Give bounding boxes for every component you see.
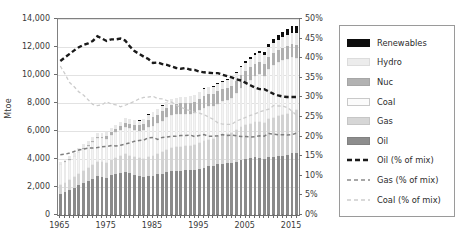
x-tick-mark: [180, 214, 181, 218]
x-tick-mark: [129, 214, 130, 218]
legend-item[interactable]: Oil (% of mix): [347, 151, 454, 171]
x-tick-mark: [138, 214, 139, 218]
legend-label: Hydro: [377, 57, 402, 67]
x-tick-mark: [184, 214, 185, 218]
legend-label: Nuc: [377, 77, 393, 87]
x-axis: 196519751985199520052015: [57, 214, 298, 236]
y-tick-mark-left: [54, 186, 57, 187]
y-tick-mark-right: [299, 214, 302, 215]
legend-label: Oil: [377, 136, 388, 146]
x-tick-mark: [282, 214, 283, 218]
x-tick-mark: [231, 214, 232, 218]
x-tick-mark: [268, 214, 269, 218]
y-tick-label-right: 40%: [305, 53, 323, 62]
x-tick-mark: [263, 214, 264, 218]
y-tick-label-right: 15%: [305, 151, 323, 160]
x-tick-label: 1985: [142, 221, 162, 230]
percent-lines: [58, 19, 299, 215]
x-tick-label: 1975: [95, 221, 115, 230]
y-tick-label-left: 14,000: [0, 14, 50, 23]
legend-line-sample: [347, 196, 370, 204]
x-tick-mark: [96, 214, 97, 218]
legend-item[interactable]: Oil: [347, 131, 454, 151]
x-tick-mark: [73, 214, 74, 218]
legend-swatch: [347, 78, 370, 86]
x-tick-mark: [171, 214, 172, 218]
y-tick-label-right: 20%: [305, 131, 323, 140]
y-tick-mark-right: [299, 18, 302, 19]
plot-area: [57, 18, 300, 216]
y-tick-label-left: 2,000: [0, 182, 50, 191]
legend-item[interactable]: Hydro: [347, 53, 454, 73]
y-tick-mark-right: [299, 96, 302, 97]
x-tick-mark: [161, 214, 162, 218]
x-tick-mark: [208, 214, 209, 218]
legend-swatch: [347, 117, 370, 125]
x-tick-mark: [157, 214, 158, 218]
y-tick-label-right: 35%: [305, 72, 323, 81]
y-tick-label-right: 25%: [305, 112, 323, 121]
y-tick-label-right: 5%: [305, 190, 318, 199]
legend-item[interactable]: Gas (% of mix): [347, 170, 454, 190]
x-tick-mark: [277, 214, 278, 218]
x-tick-mark: [101, 214, 102, 218]
legend-swatch: [347, 137, 370, 145]
y-tick-mark-right: [299, 194, 302, 195]
legend-swatch: [347, 58, 370, 66]
legend-item[interactable]: Renewables: [347, 33, 454, 53]
x-tick-mark: [296, 214, 297, 218]
line-oil-percent: [60, 36, 296, 97]
y-tick-mark-right: [299, 57, 302, 58]
x-tick-mark: [115, 214, 116, 218]
x-tick-mark: [64, 214, 65, 218]
legend-item[interactable]: Nuc: [347, 72, 454, 92]
y-tick-mark-right: [299, 77, 302, 78]
legend-item[interactable]: Gas: [347, 111, 454, 131]
x-tick-mark: [194, 214, 195, 218]
x-tick-mark: [212, 214, 213, 218]
x-tick-mark: [249, 214, 250, 218]
x-tick-label: 1995: [188, 221, 208, 230]
x-tick-label: 2015: [281, 221, 301, 230]
x-tick-mark: [189, 214, 190, 218]
legend-label: Gas: [377, 116, 393, 126]
x-tick-mark: [106, 214, 107, 218]
y-tick-label-right: 10%: [305, 170, 323, 179]
legend-label: Oil (% of mix): [377, 155, 434, 165]
y-tick-label-right: 30%: [305, 92, 323, 101]
y-tick-mark-right: [299, 116, 302, 117]
x-tick-mark: [203, 214, 204, 218]
x-tick-mark: [226, 214, 227, 218]
x-tick-mark: [92, 214, 93, 218]
y-tick-mark-right: [299, 38, 302, 39]
x-tick-mark: [273, 214, 274, 218]
legend-item[interactable]: Coal: [347, 92, 454, 112]
legend-item[interactable]: Coal (% of mix): [347, 190, 454, 210]
y-axis-title: Mtoe: [4, 89, 13, 129]
legend-swatch: [347, 39, 370, 47]
legend-label: Gas (% of mix): [377, 175, 438, 185]
y-tick-mark-right: [299, 175, 302, 176]
x-tick-mark: [120, 214, 121, 218]
legend-label: Coal: [377, 97, 395, 107]
y-tick-label-left: 8,000: [0, 98, 50, 107]
y-tick-label-right: 50%: [305, 14, 323, 23]
y-tick-label-left: 10,000: [0, 70, 50, 79]
chart-legend: RenewablesHydroNucCoalGasOilOil (% of mi…: [339, 25, 455, 217]
y-tick-label-left: 4,000: [0, 154, 50, 163]
x-tick-mark: [286, 214, 287, 218]
x-tick-mark: [245, 214, 246, 218]
x-tick-mark: [82, 214, 83, 218]
x-tick-mark: [152, 214, 153, 218]
x-tick-mark: [59, 214, 60, 218]
x-tick-mark: [217, 214, 218, 218]
x-tick-label: 2005: [235, 221, 255, 230]
x-tick-mark: [69, 214, 70, 218]
x-tick-mark: [259, 214, 260, 218]
line-coal-percent: [60, 66, 296, 124]
y-tick-mark-right: [299, 155, 302, 156]
legend-line-sample: [347, 176, 370, 184]
y-tick-label-left: 0: [0, 210, 50, 219]
x-tick-mark: [291, 214, 292, 218]
legend-label: Coal (% of mix): [377, 195, 441, 205]
